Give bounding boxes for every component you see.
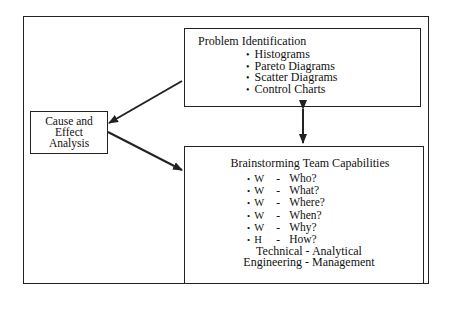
arrow-problem-to-cause — [109, 81, 182, 123]
connector-layer — [0, 0, 454, 310]
arrow-cause-to-brainstorming — [108, 132, 182, 170]
